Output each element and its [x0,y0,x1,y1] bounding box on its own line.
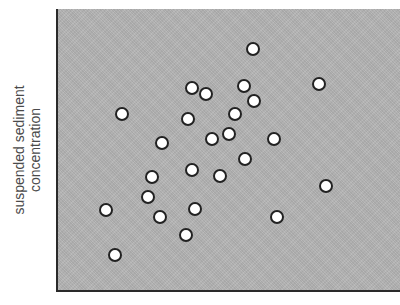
data-point [237,79,251,93]
data-point [179,228,193,242]
data-point [153,210,167,224]
data-point [108,248,122,262]
data-point [145,170,159,184]
data-point [228,107,242,121]
data-point [312,77,326,91]
data-point [213,169,227,183]
data-point [185,163,199,177]
plot-area [57,9,400,291]
data-point [99,203,113,217]
data-point [185,81,199,95]
data-point [205,132,219,146]
data-point [238,152,252,166]
data-point [181,112,195,126]
data-point [188,202,202,216]
y-axis-label-line-1: suspended sediment [11,85,27,214]
scatter-figure: suspended sediment concentration [0,0,400,305]
data-point [270,210,284,224]
data-point [247,94,261,108]
data-point [267,132,281,146]
data-point [115,107,129,121]
y-axis-line [56,9,58,292]
data-point [222,127,236,141]
data-point [141,190,155,204]
data-point [155,136,169,150]
y-axis-label-line-2: concentration [27,85,43,214]
data-point [319,179,333,193]
data-point [246,42,260,56]
x-axis-line [56,290,400,292]
data-point [199,87,213,101]
